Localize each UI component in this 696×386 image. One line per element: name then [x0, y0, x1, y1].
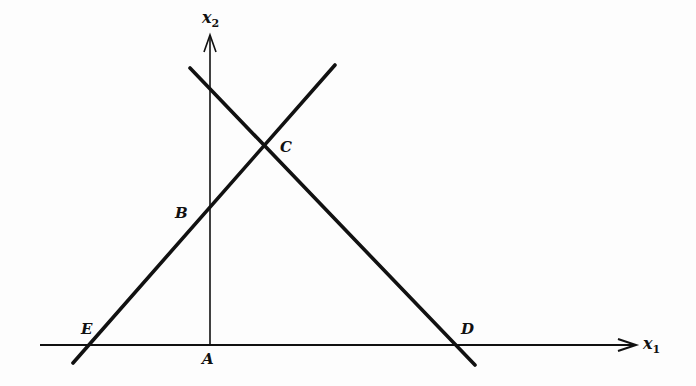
point-label-c: C — [280, 140, 292, 155]
point-label-d: D — [461, 322, 474, 337]
diagram-canvas — [0, 0, 696, 386]
x2-axis-label-subscript: 2 — [212, 17, 220, 30]
x1-axis-label-subscript: 1 — [653, 343, 661, 356]
point-label-b: B — [175, 206, 188, 221]
x2-axis-label-text: x — [202, 8, 212, 27]
point-label-a: A — [202, 352, 214, 367]
x2-axis-label: x2 — [202, 10, 219, 29]
x1-axis-label-text: x — [643, 334, 653, 353]
constraint-line-EBC — [73, 65, 335, 363]
point-label-e: E — [81, 322, 92, 337]
constraint-line-CD — [190, 68, 475, 365]
lp-feasible-region-diagram: x2 x1 C B E A D — [0, 0, 696, 386]
x1-axis-label: x1 — [643, 336, 660, 355]
